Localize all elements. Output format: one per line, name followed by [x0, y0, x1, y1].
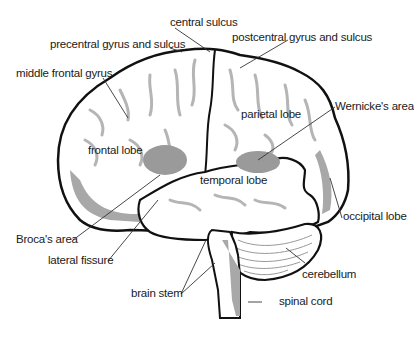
- label-spinal-cord: spinal cord: [279, 295, 332, 307]
- label-frontal-lobe: frontal lobe: [88, 144, 143, 156]
- label-temporal-lobe: temporal lobe: [200, 174, 267, 186]
- brain-illustration: [0, 0, 414, 337]
- label-brocas-area: Broca's area: [16, 233, 78, 245]
- brain-diagram: central sulcus precentral gyrus and sulc…: [0, 0, 414, 337]
- label-precentral-gyrus: precentral gyrus and sulcus: [50, 38, 185, 50]
- label-occipital-lobe: occipital lobe: [343, 210, 407, 222]
- label-middle-frontal-gyrus: middle frontal gyrus: [16, 67, 112, 79]
- label-wernickes-area: Wernicke's area: [335, 100, 414, 112]
- label-lateral-fissure: lateral fissure: [48, 254, 113, 266]
- label-brain-stem: brain stem: [131, 287, 183, 299]
- label-parietal-lobe: parietal lobe: [241, 108, 301, 120]
- label-cerebellum: cerebellum: [302, 268, 356, 280]
- label-postcentral-gyrus: postcentral gyrus and sulcus: [232, 31, 372, 43]
- broca-area-highlight: [143, 145, 187, 175]
- wernicke-area-highlight: [236, 151, 280, 173]
- label-central-sulcus: central sulcus: [170, 16, 238, 28]
